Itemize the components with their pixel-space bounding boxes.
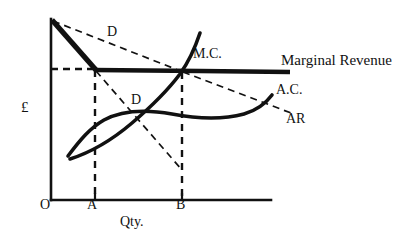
chart-canvas — [0, 0, 398, 242]
average-revenue-dashed-line — [183, 72, 291, 113]
x-axis-label: Qty. — [120, 215, 144, 229]
demand-label-lower: D — [131, 93, 141, 107]
origin-label: O — [40, 198, 50, 212]
average-cost-label: A.C. — [276, 83, 302, 97]
kinked-demand-curve-diagram: D D M.C. Marginal Revenue A.C. AR £ O A … — [0, 0, 398, 242]
y-axis-label: £ — [21, 100, 29, 115]
marginal-revenue-label: Marginal Revenue — [281, 53, 392, 68]
average-revenue-label: AR — [286, 112, 305, 126]
demand-label-upper: D — [107, 25, 117, 39]
marginal-revenue-curve — [94, 70, 290, 72]
x-axis-tick-label-b: B — [176, 198, 185, 212]
marginal-cost-label: M.C. — [193, 47, 222, 61]
demand-curve-upper-segment — [52, 20, 96, 70]
x-axis-tick-label-a: A — [87, 198, 97, 212]
